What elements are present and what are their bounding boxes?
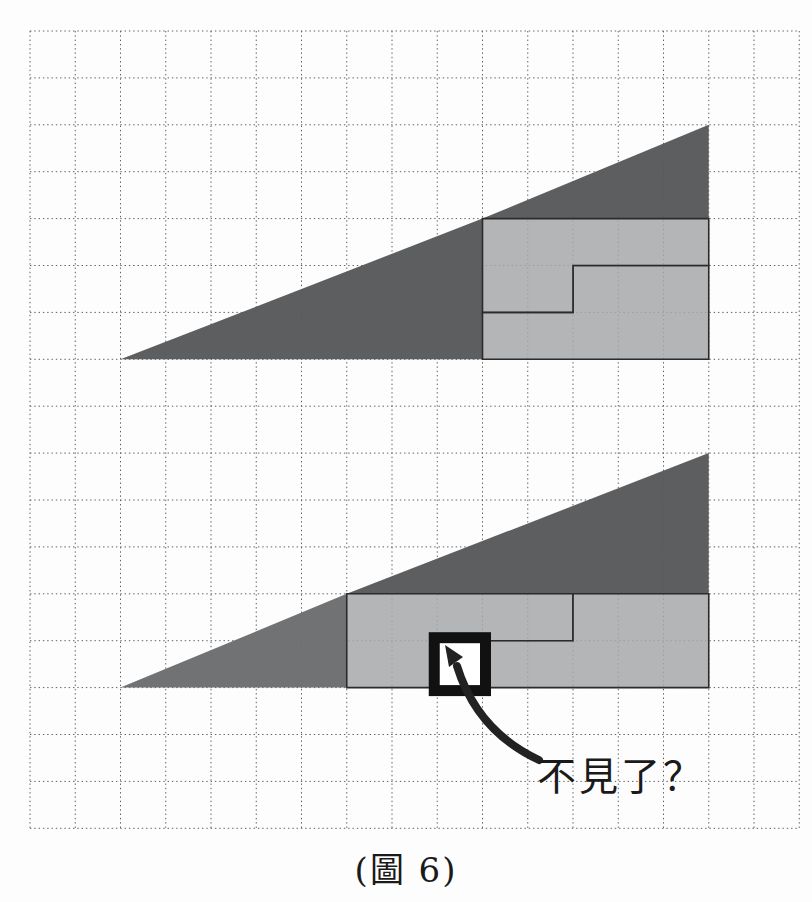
bottom-arrangement-medium-triangle-5x2: [121, 594, 347, 688]
figure-caption: (圖 6): [0, 843, 812, 892]
top-arrangement-dark-triangle-8x3: [121, 219, 483, 360]
missing-annotation-text: 不見了？: [537, 745, 705, 801]
puzzle-figure: 不見了？ (圖 6): [0, 0, 812, 902]
